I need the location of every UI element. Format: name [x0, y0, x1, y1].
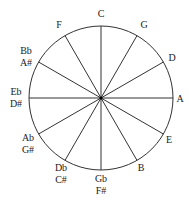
spoke-line [101, 62, 163, 98]
center-point [100, 97, 103, 100]
note-name: D [168, 53, 175, 63]
note-name: Db [55, 163, 67, 173]
note-name: B [138, 163, 145, 173]
spoke-line [39, 62, 101, 98]
note-label: F [56, 20, 62, 30]
note-name: Eb [10, 87, 22, 97]
note-label: DbC# [55, 163, 67, 185]
note-label: GbF# [95, 174, 107, 196]
note-name: D# [10, 99, 22, 109]
note-name: E [166, 135, 172, 145]
spoke-line [39, 98, 101, 134]
note-name: Ab [22, 133, 34, 143]
spoke-line [65, 98, 101, 160]
note-name: C [98, 9, 105, 19]
note-label: E [166, 135, 172, 145]
note-label: AbG# [22, 133, 34, 155]
note-name: G [140, 20, 147, 30]
note-name: F# [95, 186, 107, 196]
note-name: F [56, 20, 62, 30]
note-name: C# [55, 175, 67, 185]
note-label: A [176, 94, 183, 104]
note-name: G# [22, 145, 34, 155]
note-name: A# [20, 58, 32, 68]
note-name: Gb [95, 174, 107, 184]
note-name: A [176, 94, 183, 104]
note-label: G [140, 20, 147, 30]
note-name: Bb [20, 46, 32, 56]
spoke-line [101, 98, 163, 134]
spoke-line [65, 36, 101, 98]
spoke-line [101, 36, 137, 98]
note-label: EbD# [10, 87, 22, 109]
note-label: D [168, 53, 175, 63]
spoke-line [101, 98, 137, 160]
note-label: B [138, 163, 145, 173]
circle-of-fifths-diagram: CGDAEBGbF#DbC#AbG#EbD#BbA#F [0, 0, 189, 206]
note-label: C [98, 9, 105, 19]
note-label: BbA# [20, 46, 32, 68]
